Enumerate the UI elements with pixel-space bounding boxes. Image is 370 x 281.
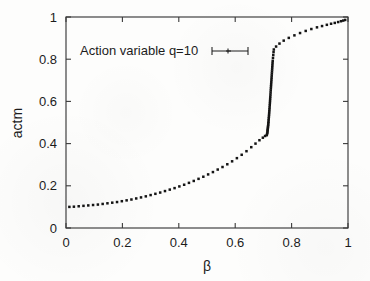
data-point xyxy=(178,185,181,188)
y-axis-title: actm xyxy=(9,108,25,138)
data-point xyxy=(299,32,302,35)
y-tick-label: 0 xyxy=(50,221,57,236)
data-point xyxy=(145,195,148,198)
data-point xyxy=(272,51,275,54)
data-point xyxy=(275,45,278,48)
data-point xyxy=(304,30,307,33)
data-point xyxy=(226,163,229,166)
data-point xyxy=(236,157,239,160)
legend: Action variable q=10 xyxy=(80,43,248,58)
data-point xyxy=(272,54,275,57)
data-point xyxy=(240,154,243,157)
data-point xyxy=(321,25,324,28)
y-axis-tick-labels: 00.20.40.60.81 xyxy=(39,10,57,236)
data-point xyxy=(231,160,234,163)
data-point xyxy=(173,187,176,190)
data-point xyxy=(282,39,285,42)
data-point xyxy=(271,60,274,63)
data-point xyxy=(169,188,172,191)
data-point xyxy=(326,24,329,27)
data-point xyxy=(212,171,215,174)
x-tick-label: 0.8 xyxy=(283,235,301,250)
data-point xyxy=(183,184,186,187)
data-point xyxy=(87,204,90,207)
x-tick-label: 0.2 xyxy=(113,235,131,250)
data-point xyxy=(193,180,196,183)
data-point xyxy=(159,191,162,194)
data-point xyxy=(262,136,265,139)
data-point xyxy=(188,182,191,185)
data-point xyxy=(77,205,80,208)
data-point xyxy=(344,19,347,22)
data-point xyxy=(254,142,257,145)
x-tick-label: 0.6 xyxy=(226,235,244,250)
data-point xyxy=(221,166,224,169)
x-tick-label: 0.4 xyxy=(170,235,188,250)
x-tick-label: 1 xyxy=(344,235,351,250)
data-point xyxy=(337,21,340,24)
x-tick-label: 0 xyxy=(62,235,69,250)
data-point xyxy=(164,190,167,193)
data-point xyxy=(293,34,296,37)
x-axis-title: β xyxy=(203,258,211,274)
scatter-plot: 00.20.40.60.81 00.20.40.60.81 β actm Act… xyxy=(0,0,370,281)
data-point xyxy=(149,194,152,197)
data-point xyxy=(340,20,343,23)
data-point xyxy=(278,42,281,45)
y-tick-label: 0.8 xyxy=(39,52,57,67)
data-point xyxy=(73,205,76,208)
data-point xyxy=(273,48,276,51)
data-point xyxy=(288,37,291,40)
data-point xyxy=(202,175,205,178)
data-point xyxy=(97,203,100,206)
data-point xyxy=(245,150,248,153)
data-point xyxy=(140,196,143,199)
data-point xyxy=(258,139,261,142)
legend-entry-label: Action variable q=10 xyxy=(80,43,198,58)
data-point xyxy=(125,199,128,202)
y-tick-label: 0.4 xyxy=(39,136,57,151)
data-point xyxy=(82,205,85,208)
data-point xyxy=(121,200,124,203)
data-point xyxy=(272,57,275,60)
data-point xyxy=(216,168,219,171)
y-tick-label: 1 xyxy=(50,10,57,25)
figure-container: 00.20.40.60.81 00.20.40.60.81 β actm Act… xyxy=(0,0,370,281)
y-tick-label: 0.6 xyxy=(39,94,57,109)
data-point xyxy=(207,173,210,176)
data-point xyxy=(330,23,333,26)
data-point xyxy=(197,178,200,181)
data-point xyxy=(316,26,319,29)
data-point xyxy=(135,197,138,200)
data-point xyxy=(68,206,71,209)
x-axis-tick-labels: 00.20.40.60.81 xyxy=(62,235,351,250)
data-point xyxy=(310,28,313,31)
data-point xyxy=(334,22,337,25)
data-point xyxy=(130,198,133,201)
legend-marker-errorbar xyxy=(212,47,248,55)
data-point xyxy=(101,203,104,206)
data-point xyxy=(154,193,157,196)
data-point xyxy=(92,204,95,207)
data-point xyxy=(250,146,253,149)
data-point xyxy=(116,201,119,204)
data-point xyxy=(106,202,109,205)
data-point xyxy=(111,201,114,204)
y-tick-label: 0.2 xyxy=(39,178,57,193)
